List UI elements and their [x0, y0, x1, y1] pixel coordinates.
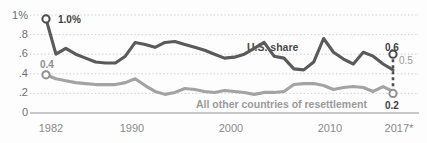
data-point-marker	[389, 90, 396, 97]
chart-container: 1% .8 .6 .4 .2 0 1982 1990 2000 2010 201…	[0, 0, 427, 143]
chart-plot-area	[0, 0, 427, 143]
data-point-marker	[42, 15, 49, 22]
line-all-other-countries	[46, 75, 393, 95]
data-point-marker	[42, 71, 49, 78]
line-us-share	[46, 19, 393, 70]
data-point-marker	[389, 51, 396, 58]
